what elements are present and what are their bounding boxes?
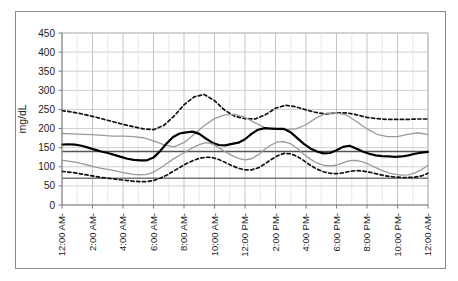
y-tick-label: 350 xyxy=(38,66,55,77)
y-tick-label: 50 xyxy=(44,180,56,191)
x-tick-label: 4:00 AM- xyxy=(117,213,128,251)
y-tick-label: 150 xyxy=(38,142,55,153)
y-tick-label: 450 xyxy=(38,28,55,39)
y-tick-label: 0 xyxy=(49,200,55,211)
x-tick-label: 6:00 AM- xyxy=(148,213,159,251)
y-tick-label: 100 xyxy=(38,161,55,172)
glucose-profile-chart: 050100150200250300350400450 12:00 AM-2:0… xyxy=(0,0,458,281)
x-tick-label: 2:00 PM- xyxy=(270,213,281,252)
y-tick-label: 300 xyxy=(38,85,55,96)
x-tick-label: 2:00 AM- xyxy=(87,213,98,251)
chart-figure: 050100150200250300350400450 12:00 AM-2:0… xyxy=(0,0,458,281)
x-tick-label: 12:00 PM- xyxy=(239,213,250,257)
x-tick-label: 10:00 AM- xyxy=(209,213,220,256)
x-tick-label: 6:00 PM- xyxy=(331,213,342,252)
y-tick-label: 250 xyxy=(38,104,55,115)
x-tick-label: 8:00 PM- xyxy=(361,213,372,252)
x-axis-tick-labels: 12:00 AM-2:00 AM-4:00 AM-6:00 AM-8:00 AM… xyxy=(56,213,433,257)
x-tick-label: 12:00 AM- xyxy=(422,213,433,256)
x-tick-label: 8:00 AM- xyxy=(178,213,189,251)
y-tick-label: 400 xyxy=(38,47,55,58)
y-axis-tick-labels: 050100150200250300350400450 xyxy=(38,28,55,211)
x-tick-label: 10:00 PM- xyxy=(392,213,403,257)
y-tick-label: 200 xyxy=(38,123,55,134)
y-axis-title: mg/dL xyxy=(16,104,28,133)
x-tick-label: 4:00 PM- xyxy=(300,213,311,252)
x-tick-label: 12:00 AM- xyxy=(56,213,67,256)
